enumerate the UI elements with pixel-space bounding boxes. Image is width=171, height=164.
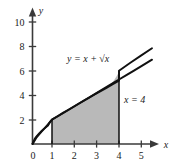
graph-plot: 10 8 6 4 2 0 1 2 3 4 5 y x y = x + √x x … (0, 0, 171, 164)
y-tick-label-6: 6 (20, 66, 25, 77)
boundary-label-x4: x = 4 (123, 94, 145, 105)
x-tick-label-2: 2 (72, 150, 77, 161)
x-tick-label-1: 1 (50, 150, 55, 161)
x-tick-label-4: 4 (117, 150, 122, 161)
x-tick-label-5: 5 (139, 150, 144, 161)
curve-equation-label: y = x + √x (66, 53, 110, 64)
x-tick-label-0: 0 (31, 150, 36, 161)
y-tick-label-8: 8 (20, 41, 25, 52)
y-tick-label-4: 4 (20, 90, 25, 101)
x-axis-arrowhead (150, 140, 159, 147)
y-tick-label-2: 2 (20, 115, 25, 126)
x-tick-label-3: 3 (94, 150, 99, 161)
x-axis-label: x (163, 139, 169, 150)
y-tick-label-10: 10 (15, 17, 25, 28)
y-axis-arrowhead (29, 8, 36, 17)
y-axis-label: y (38, 5, 44, 16)
figure-container: 10 8 6 4 2 0 1 2 3 4 5 y x y = x + √x x … (0, 0, 171, 164)
